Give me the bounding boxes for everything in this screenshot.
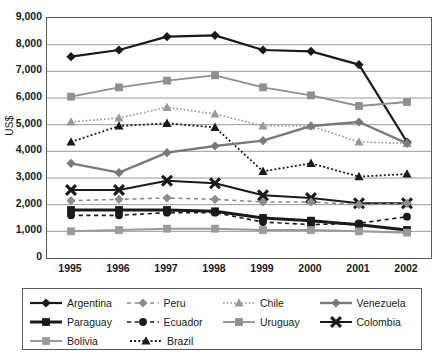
legend-label: Bolivia xyxy=(63,335,98,347)
series-ecuador xyxy=(67,209,411,229)
data-point xyxy=(307,91,315,99)
y-tick-9000: 9,000 xyxy=(0,11,42,22)
y-tick-1000: 1,000 xyxy=(0,224,42,235)
legend-item-ecuador[interactable]: Ecuador xyxy=(126,315,223,329)
legend-item-uruguay[interactable]: Uruguay xyxy=(222,315,319,329)
data-point xyxy=(402,169,411,177)
data-point xyxy=(210,123,219,131)
data-point xyxy=(114,113,123,121)
data-point xyxy=(162,148,171,157)
data-point xyxy=(258,45,267,54)
y-tick-6000: 6,000 xyxy=(0,91,42,102)
legend-label: Venezuela xyxy=(353,297,406,309)
legend-label: Brazil xyxy=(163,335,193,347)
y-tick-5000: 5,000 xyxy=(0,118,42,129)
data-point xyxy=(211,71,219,79)
plot-area xyxy=(46,17,432,259)
data-point xyxy=(354,117,363,126)
circle-marker-icon xyxy=(126,315,160,329)
data-point xyxy=(163,209,171,217)
legend-label: Uruguay xyxy=(256,316,300,328)
y-tick-7000: 7,000 xyxy=(0,64,42,75)
data-point xyxy=(163,77,171,85)
square-marker-icon xyxy=(29,315,63,329)
plot-svg xyxy=(47,18,431,258)
x-tick-1995: 1995 xyxy=(48,262,92,274)
legend-item-peru[interactable]: Peru xyxy=(126,296,223,310)
data-point xyxy=(162,32,171,41)
data-point xyxy=(355,227,363,235)
diamond-marker-icon xyxy=(126,296,160,310)
square-marker-icon xyxy=(222,315,256,329)
diamond-marker-icon xyxy=(29,296,63,310)
x-tick-1999: 1999 xyxy=(240,262,284,274)
legend-label: Chile xyxy=(256,297,284,309)
cross-marker-icon xyxy=(319,315,353,329)
legend-label: Ecuador xyxy=(160,316,203,328)
data-point xyxy=(67,211,75,219)
legend-item-paraguay[interactable]: Paraguay xyxy=(29,315,126,329)
data-point xyxy=(114,195,123,204)
series-line xyxy=(71,122,407,173)
legend-item-colombia[interactable]: Colombia xyxy=(319,315,416,329)
x-tick-1998: 1998 xyxy=(192,262,236,274)
series-line xyxy=(71,107,407,143)
data-point xyxy=(114,45,123,54)
series-uruguay xyxy=(67,71,411,109)
x-tick-1996: 1996 xyxy=(96,262,140,274)
line-chart: US$ 9,0008,0007,0006,0005,0004,0003,0002… xyxy=(0,0,437,354)
data-point xyxy=(258,136,267,145)
data-point xyxy=(210,141,219,150)
data-point xyxy=(403,98,411,106)
data-point xyxy=(355,102,363,110)
legend-item-chile[interactable]: Chile xyxy=(222,296,319,310)
legend-item-bolivia[interactable]: Bolivia xyxy=(29,334,129,348)
data-point xyxy=(259,83,267,91)
y-tick-0: 0 xyxy=(0,251,42,262)
data-point xyxy=(115,226,123,234)
square-marker-icon xyxy=(29,334,63,348)
triangle-marker-icon xyxy=(129,334,163,348)
legend-item-venezuela[interactable]: Venezuela xyxy=(319,296,416,310)
chart-legend: ArgentinaPeruChileVenezuelaParaguayEcuad… xyxy=(22,288,422,350)
y-tick-2000: 2,000 xyxy=(0,198,42,209)
data-point xyxy=(307,226,315,234)
data-point xyxy=(259,226,267,234)
data-point xyxy=(306,47,315,56)
data-point xyxy=(354,137,363,145)
data-point xyxy=(66,137,75,145)
y-tick-8000: 8,000 xyxy=(0,38,42,49)
legend-label: Paraguay xyxy=(63,316,112,328)
data-point xyxy=(114,121,123,129)
diamond-marker-icon xyxy=(319,296,353,310)
data-point xyxy=(259,218,267,226)
data-point xyxy=(211,225,219,233)
y-tick-4000: 4,000 xyxy=(0,144,42,155)
series-line xyxy=(71,123,407,176)
legend-item-brazil[interactable]: Brazil xyxy=(129,334,229,348)
data-point xyxy=(162,103,171,111)
legend-row: ParaguayEcuadorUruguayColombia xyxy=(29,312,415,331)
x-tick-2002: 2002 xyxy=(384,262,428,274)
data-point xyxy=(162,193,171,202)
legend-label: Peru xyxy=(160,297,186,309)
data-point xyxy=(403,213,411,221)
data-point xyxy=(115,83,123,91)
legend-item-argentina[interactable]: Argentina xyxy=(29,296,126,310)
data-point xyxy=(66,52,75,61)
legend-label: Argentina xyxy=(63,297,112,309)
x-tick-2000: 2000 xyxy=(288,262,332,274)
data-point xyxy=(306,159,315,167)
data-point xyxy=(66,117,75,125)
data-point xyxy=(66,196,75,205)
legend-label: Colombia xyxy=(353,316,401,328)
data-point xyxy=(210,109,219,117)
legend-row: ArgentinaPeruChileVenezuela xyxy=(29,293,415,312)
triangle-marker-icon xyxy=(222,296,256,310)
data-point xyxy=(114,168,123,177)
data-point xyxy=(67,93,75,101)
data-point xyxy=(66,159,75,168)
data-point xyxy=(115,211,123,219)
data-point xyxy=(163,225,171,233)
data-point xyxy=(211,209,219,217)
